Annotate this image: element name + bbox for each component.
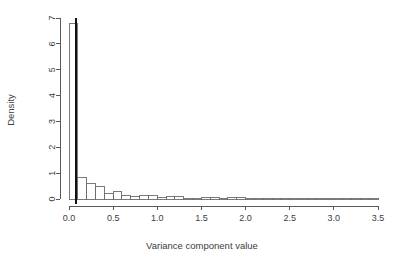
histogram-bar: [272, 198, 281, 199]
histogram-bar: [140, 195, 149, 199]
histogram-bar: [334, 198, 343, 199]
histogram-bar: [131, 196, 140, 199]
histogram-bar: [228, 197, 237, 199]
histogram-bar: [87, 183, 96, 199]
histogram-bar: [95, 187, 104, 199]
histogram-bar: [299, 198, 308, 199]
histogram-bar: [104, 194, 113, 199]
histogram-bar: [210, 198, 219, 199]
histogram-bar: [316, 198, 325, 199]
x-axis-title: Variance component value: [146, 240, 258, 251]
histogram-bar: [343, 198, 352, 199]
histogram-bar: [352, 198, 361, 199]
y-axis-tick-label: 5: [47, 67, 57, 72]
y-axis-tick-label: 6: [47, 41, 57, 46]
x-axis-tick-label: 0.0: [63, 213, 76, 223]
histogram-chart: 0.00.51.01.52.02.53.03.5 01234567 Varian…: [0, 0, 404, 268]
chart-canvas: 0.00.51.01.52.02.53.03.5 01234567 Varian…: [0, 0, 404, 268]
x-axis-tick-label: 3.0: [328, 213, 341, 223]
histogram-bar: [237, 197, 246, 199]
y-axis-tick-label: 0: [47, 196, 57, 201]
histogram-bar: [246, 198, 255, 199]
histogram-bar: [78, 178, 87, 199]
y-axis: 01234567: [47, 15, 60, 201]
y-axis-tick-label: 3: [47, 119, 57, 124]
x-axis: 0.00.51.01.52.02.53.03.5: [63, 206, 385, 223]
histogram-bar: [148, 196, 157, 199]
x-axis-tick-label: 3.5: [372, 213, 385, 223]
histogram-bars: [69, 23, 378, 199]
x-axis-tick-label: 0.5: [107, 213, 120, 223]
histogram-bar: [184, 198, 193, 199]
y-axis-tick-label: 7: [47, 15, 57, 20]
y-axis-tick-label: 1: [47, 171, 57, 176]
histogram-bar: [219, 198, 228, 199]
histogram-bar: [175, 197, 184, 199]
histogram-bar: [281, 198, 290, 199]
x-axis-tick-label: 1.5: [195, 213, 208, 223]
histogram-bar: [360, 198, 369, 199]
histogram-bar: [369, 198, 378, 199]
x-axis-tick-label: 2.0: [239, 213, 252, 223]
y-axis-title: Density: [5, 94, 16, 126]
x-axis-tick-label: 2.5: [283, 213, 296, 223]
histogram-bar: [201, 198, 210, 199]
histogram-bar: [307, 198, 316, 199]
y-axis-tick-label: 4: [47, 93, 57, 98]
histogram-bar: [166, 197, 175, 199]
histogram-bar: [254, 198, 263, 199]
histogram-bar: [325, 198, 334, 199]
histogram-bar: [157, 198, 166, 199]
histogram-bar: [113, 192, 122, 200]
y-axis-tick-label: 2: [47, 145, 57, 150]
x-axis-tick-label: 1.0: [151, 213, 164, 223]
histogram-bar: [290, 198, 299, 199]
histogram-bar: [263, 198, 272, 199]
histogram-bar: [122, 195, 131, 199]
histogram-bar: [193, 198, 202, 199]
